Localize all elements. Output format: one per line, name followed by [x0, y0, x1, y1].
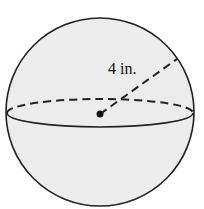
radius-label: 4 in.	[108, 60, 136, 78]
center-point	[97, 111, 104, 118]
sphere-diagram	[0, 0, 204, 209]
